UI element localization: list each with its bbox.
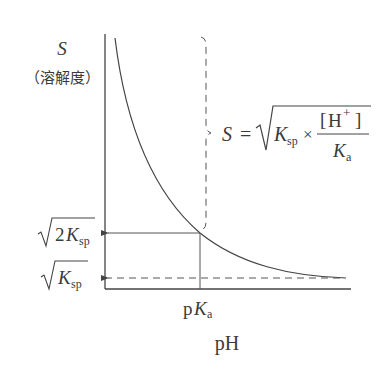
svg-text:sp: sp [79, 234, 90, 248]
svg-text:×: × [303, 125, 313, 144]
y-tick-sqrt-2ksp: 2 K sp [38, 218, 95, 248]
chart-canvas: S （溶解度） S = K sp × [ H + ] K a 2 K sp K … [0, 0, 385, 373]
solubility-formula: S = K sp × [ H + ] K a [222, 105, 371, 164]
y-axis-label: S [57, 38, 67, 59]
x-axis-label: pH [215, 332, 239, 355]
svg-text:p: p [183, 298, 193, 319]
solubility-ph-chart: S （溶解度） S = K sp × [ H + ] K a 2 K sp K … [0, 0, 385, 373]
solubility-curve [115, 38, 346, 278]
svg-text:K: K [193, 298, 208, 319]
y-axis-sublabel: （溶解度） [25, 69, 100, 87]
svg-text:K: K [57, 267, 72, 288]
svg-text:=: = [240, 123, 251, 145]
x-tick-pka: p K a [183, 298, 213, 321]
y-tick-sqrt-ksp: K sp [41, 261, 88, 291]
svg-text:S: S [222, 123, 232, 145]
svg-text:K: K [332, 140, 347, 161]
svg-text:[: [ [320, 109, 326, 130]
svg-text:sp: sp [71, 277, 82, 291]
svg-text:+: + [343, 105, 350, 120]
formula-brace [201, 37, 211, 230]
svg-text:2: 2 [55, 224, 65, 245]
svg-text:a: a [346, 150, 352, 164]
svg-text:H: H [328, 110, 342, 131]
svg-text:K: K [65, 224, 80, 245]
svg-text:]: ] [355, 109, 361, 130]
svg-text:sp: sp [287, 134, 298, 148]
svg-text:a: a [207, 307, 213, 321]
